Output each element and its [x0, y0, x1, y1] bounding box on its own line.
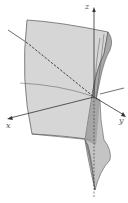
- y-axis-back: [100, 88, 124, 94]
- z-axis-arrow: [92, 7, 96, 12]
- z-axis-label: z: [85, 3, 89, 11]
- y-axis-label: y: [119, 117, 124, 125]
- x-axis-label: x: [6, 122, 11, 130]
- x-axis-back: [8, 30, 26, 42]
- surface-plot: [0, 0, 128, 203]
- x-axis-arrow: [7, 116, 13, 120]
